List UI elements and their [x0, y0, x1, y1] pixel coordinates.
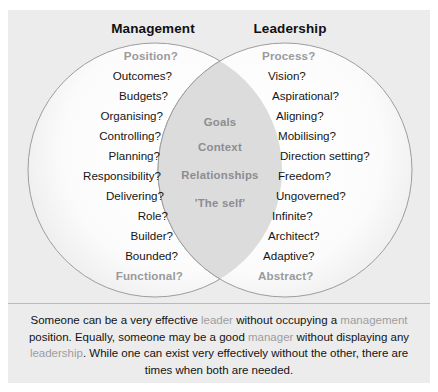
caption-segment: position. Equally, someone may be a good [29, 331, 248, 343]
overlap-term: Goals [160, 116, 280, 128]
leadership-term: Vision? [268, 70, 306, 82]
overlap-term: 'The self' [160, 197, 280, 209]
leadership-term: Process? [262, 50, 315, 62]
leadership-term: Direction setting? [280, 150, 370, 162]
overlap-term: Context [160, 141, 280, 153]
leadership-term: Adaptive? [263, 250, 315, 262]
caption-segment: . While one can exist very effectively w… [83, 347, 408, 376]
leadership-term: Abstract? [258, 270, 313, 282]
caption-segment: Someone can be a very effective [31, 314, 201, 326]
caption-highlight: manager [248, 331, 293, 343]
leadership-term: Mobilising? [278, 130, 336, 142]
overlap-term: Relationships [160, 169, 280, 181]
caption-highlight: leader [201, 314, 233, 326]
leadership-term: Freedom? [278, 170, 331, 182]
caption-segment: without occupying a [233, 314, 340, 326]
leadership-term: Infinite? [272, 210, 313, 222]
caption-segment: without displaying any [293, 331, 409, 343]
caption-divider [8, 303, 430, 304]
leadership-term: Aspirational? [272, 90, 339, 102]
venn-diagram-figure: Management Leadership Position?Ou [0, 0, 438, 392]
leadership-term: Architect? [268, 230, 320, 242]
caption-highlight: leadership [30, 347, 83, 359]
caption-highlight: management [340, 314, 407, 326]
leadership-term: Ungoverned? [276, 190, 346, 202]
caption-text: Someone can be a very effective leader w… [22, 312, 416, 378]
leadership-term: Aligning? [276, 110, 324, 122]
